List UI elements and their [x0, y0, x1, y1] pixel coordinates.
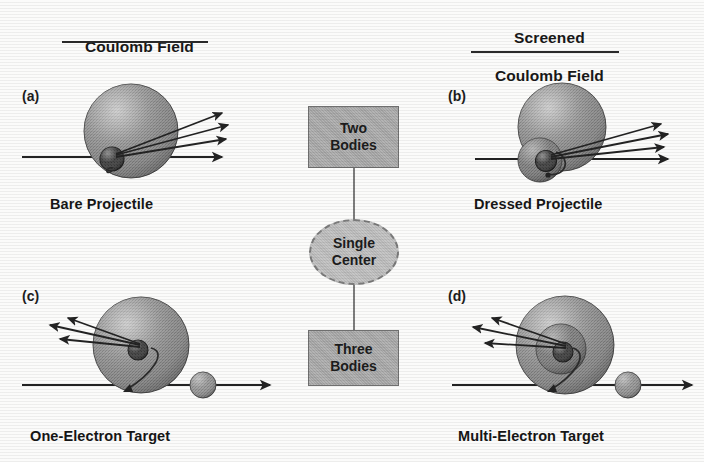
panel-a-target-sphere-shading: [84, 84, 178, 178]
panel-d-graphic: [452, 296, 692, 398]
panel-c-projectile-sphere-shading: [190, 372, 216, 398]
flow-connector-bottom: [353, 283, 355, 331]
panel-b-trajectory-endpoint: [545, 172, 550, 177]
panel-d-projectile-sphere-shading: [615, 372, 641, 398]
flow-ellipse-single-center-label: Single Center: [311, 235, 397, 269]
panel-a-graphic: [22, 84, 228, 178]
flow-box-three-bodies[interactable]: Three Bodies: [308, 330, 399, 386]
flow-box-two-bodies[interactable]: Two Bodies: [308, 106, 399, 168]
panel-b-graphic: [475, 83, 668, 182]
flow-box-three-bodies-label: Three Bodies: [309, 341, 398, 375]
flow-box-two-bodies-line1: Two: [340, 120, 367, 136]
flow-box-three-bodies-line2: Bodies: [330, 358, 377, 374]
flow-ellipse-line1: Single: [333, 235, 375, 251]
panel-c-graphic: [22, 297, 270, 398]
flow-ellipse-single-center[interactable]: Single Center: [309, 219, 399, 285]
flow-box-three-bodies-line1: Three: [334, 341, 372, 357]
flow-box-two-bodies-label: Two Bodies: [309, 120, 398, 154]
flow-connector-top: [353, 168, 355, 222]
flow-box-two-bodies-line2: Bodies: [330, 137, 377, 153]
flow-ellipse-line2: Center: [332, 252, 376, 268]
